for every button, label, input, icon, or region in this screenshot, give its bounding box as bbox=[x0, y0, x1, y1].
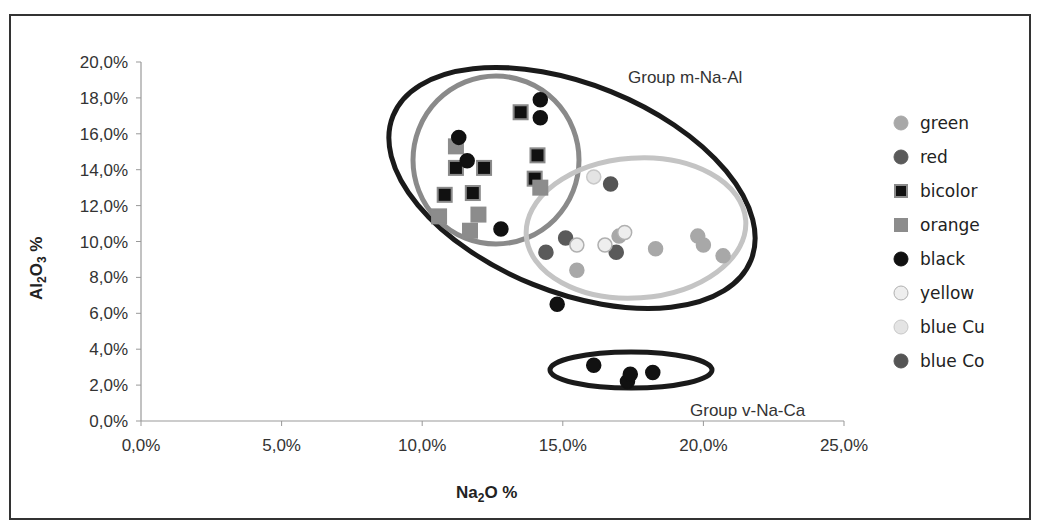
data-point-black bbox=[533, 93, 547, 107]
x-tick-label: 0,0% bbox=[122, 436, 161, 455]
legend-label: black bbox=[920, 249, 965, 269]
data-point-blue-Cu bbox=[587, 170, 601, 184]
green-yellow-cluster-ellipse bbox=[521, 150, 750, 305]
legend-label: green bbox=[920, 113, 969, 133]
legend-label: orange bbox=[920, 215, 980, 235]
y-tick-label: 10,0% bbox=[80, 233, 128, 252]
data-point-bicolor bbox=[466, 186, 480, 200]
legend-label: blue Cu bbox=[920, 317, 985, 337]
legend-item-red: red bbox=[894, 147, 948, 167]
data-point-bicolor bbox=[514, 105, 528, 119]
data-point-red bbox=[539, 245, 553, 259]
y-tick-label: 12,0% bbox=[80, 197, 128, 216]
data-point-black bbox=[460, 154, 474, 168]
data-point-black bbox=[494, 222, 508, 236]
y-tick-label: 14,0% bbox=[80, 161, 128, 180]
legend-label: bicolor bbox=[920, 181, 977, 201]
data-point-black bbox=[452, 130, 466, 144]
x-tick-label: 5,0% bbox=[262, 436, 301, 455]
data-point-orange bbox=[432, 209, 446, 223]
legend-label: yellow bbox=[920, 283, 974, 303]
x-axis-title: Na2O % bbox=[456, 483, 517, 505]
data-point-green bbox=[716, 249, 730, 263]
x-tick-label: 25,0% bbox=[820, 436, 868, 455]
y-tick-label: 2,0% bbox=[89, 376, 128, 395]
data-point-black bbox=[550, 297, 564, 311]
group-v-label: Group v-Na-Ca bbox=[690, 401, 806, 420]
data-point-green bbox=[570, 263, 584, 277]
data-point-yellow bbox=[618, 226, 632, 240]
legend-item-yellow: yellow bbox=[894, 283, 974, 303]
data-point-orange bbox=[471, 208, 485, 222]
x-tick-label: 20,0% bbox=[679, 436, 727, 455]
x-tick-label: 10,0% bbox=[398, 436, 446, 455]
y-tick-label: 8,0% bbox=[89, 268, 128, 287]
legend-marker-icon bbox=[894, 286, 908, 300]
legend-item-bicolor: bicolor bbox=[895, 181, 977, 201]
data-point-green bbox=[649, 242, 663, 256]
legend-item-blue-Cu: blue Cu bbox=[894, 317, 985, 337]
data-point-black bbox=[587, 358, 601, 372]
data-point-bicolor bbox=[530, 148, 544, 162]
data-point-bicolor bbox=[477, 161, 491, 175]
legend-marker-icon bbox=[894, 150, 908, 164]
y-tick-label: 16,0% bbox=[80, 125, 128, 144]
data-point-black bbox=[646, 366, 660, 380]
legend-label: red bbox=[920, 147, 948, 167]
legend-item-green: green bbox=[894, 113, 969, 133]
data-point-orange bbox=[533, 181, 547, 195]
data-point-yellow bbox=[570, 238, 584, 252]
y-tick-label: 6,0% bbox=[89, 304, 128, 323]
legend-marker-icon bbox=[894, 320, 908, 334]
legend-marker-icon bbox=[894, 354, 908, 368]
legend-marker-icon bbox=[895, 185, 907, 197]
legend-marker-icon bbox=[894, 116, 908, 130]
y-tick-label: 18,0% bbox=[80, 89, 128, 108]
data-point-yellow bbox=[598, 238, 612, 252]
legend-item-black: black bbox=[894, 249, 965, 269]
data-point-orange bbox=[463, 224, 477, 238]
legend-label: blue Co bbox=[920, 351, 984, 371]
y-tick-label: 4,0% bbox=[89, 340, 128, 359]
x-tick-label: 15,0% bbox=[539, 436, 587, 455]
data-point-black bbox=[623, 367, 637, 381]
y-axis-title: Al2O3 % bbox=[27, 237, 49, 300]
data-point-bicolor bbox=[438, 188, 452, 202]
y-tick-label: 20,0% bbox=[80, 53, 128, 72]
data-point-green bbox=[696, 238, 710, 252]
legend-marker-icon bbox=[894, 252, 908, 266]
legend-item-orange: orange bbox=[895, 215, 980, 235]
data-point-black bbox=[533, 111, 547, 125]
scatter-chart: 0,0%5,0%10,0%15,0%20,0%25,0%0,0%2,0%4,0%… bbox=[0, 0, 1041, 531]
legend: greenredbicolororangeblackyellowblue Cub… bbox=[894, 113, 985, 371]
legend-marker-icon bbox=[895, 219, 907, 231]
y-tick-label: 0,0% bbox=[89, 412, 128, 431]
data-point-blue-Co bbox=[604, 177, 618, 191]
group-m-label: Group m-Na-Al bbox=[628, 68, 742, 87]
legend-item-blue-Co: blue Co bbox=[894, 351, 984, 371]
